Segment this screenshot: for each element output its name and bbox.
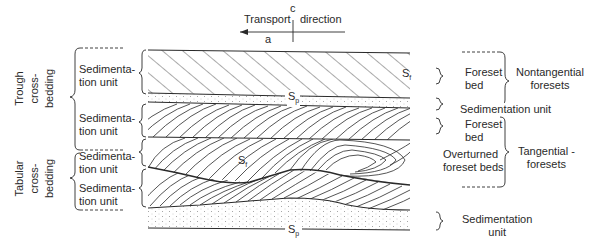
left-unit-2-label: Sedimenta-tion unit xyxy=(79,112,135,138)
foreset-bed-1-label: Foresetbed xyxy=(465,66,502,92)
unit-braces xyxy=(139,50,146,207)
unit-1-nontangential-foresets xyxy=(148,50,410,98)
overturned-foreset-beds-label: Overturnedforeset beds xyxy=(443,148,504,174)
left-unit-1-label: Sedimenta-tion unit xyxy=(79,63,135,89)
foreset-bed-2-label: Foresetbed xyxy=(465,118,502,144)
transport-label: Transport xyxy=(244,13,291,26)
tangential-foresets-label: Tangential -foresets xyxy=(518,145,575,171)
trough-cross-bedding-label: Trough cross- bedding xyxy=(4,62,74,112)
direction-label: direction xyxy=(300,13,342,26)
sp-lower-label: Sp xyxy=(287,223,300,240)
tabular-cross-bedding-label: Tabular cross- bedding xyxy=(4,152,74,202)
axis-c-label: c xyxy=(290,2,296,15)
sf-lower-label: Sf xyxy=(238,154,247,171)
right-small-braces xyxy=(436,68,443,230)
sedimentation-unit-bottom-label: Sedimentationunit xyxy=(462,213,532,239)
sp-upper-label: Sp xyxy=(287,90,300,107)
unit-2-tangential-foresets xyxy=(127,104,437,140)
left-unit-4-label: Sedimenta-tion unit xyxy=(79,182,135,208)
sf-upper-label: Sf xyxy=(402,67,411,84)
sedimentation-unit-mid-label: Sedimentation unit xyxy=(460,103,551,116)
lower-sand-layer xyxy=(148,198,410,230)
axis-a-label: a xyxy=(265,33,271,46)
left-unit-3-label: Sedimenta-tion unit xyxy=(79,150,135,176)
nontangential-foresets-label: Nontangentialforesets xyxy=(516,66,584,92)
